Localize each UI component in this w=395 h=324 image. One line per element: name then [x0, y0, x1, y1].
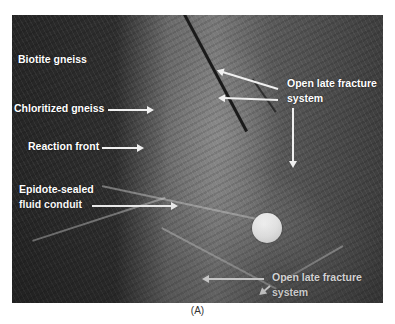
arrow-reaction-front [102, 147, 138, 149]
epidote-vein [32, 197, 166, 242]
arrow-fracture-bottom-diag [263, 285, 270, 292]
arrow-chloritized [108, 109, 148, 111]
epidote-vein [282, 245, 344, 282]
arrow-fracture-top-down [292, 108, 294, 162]
label-reaction-front: Reaction front [28, 140, 99, 153]
label-fracture-top-line2: system [287, 92, 323, 105]
figure-caption: (A) [0, 305, 395, 316]
arrow-fracture-top-b [224, 97, 278, 101]
secondary-fracture [252, 79, 277, 113]
label-fracture-bottom-line1: Open late fracture [272, 271, 362, 284]
arrow-fracture-bottom [208, 278, 264, 280]
label-epidote-line2: fluid conduit [19, 198, 82, 211]
label-biotite-gneiss: Biotite gneiss [18, 53, 87, 66]
rock-outcrop-photo: Biotite gneiss Chloritized gneiss Reacti… [12, 15, 383, 303]
label-chloritized-gneiss: Chloritized gneiss [14, 102, 104, 115]
scale-coin [252, 213, 282, 243]
label-fracture-top-line1: Open late fracture [287, 77, 377, 90]
arrow-epidote [92, 205, 172, 207]
main-fracture [182, 15, 248, 132]
epidote-vein [161, 227, 277, 290]
epidote-vein [102, 185, 278, 224]
label-fracture-bottom-line2: system [272, 286, 308, 299]
label-epidote-line1: Epidote-sealed [19, 183, 94, 196]
arrow-fracture-top-a [222, 71, 278, 90]
